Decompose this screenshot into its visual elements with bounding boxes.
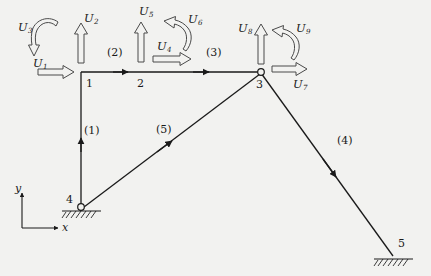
dof-label-u3: U3: [18, 22, 32, 34]
member-label-3: (3): [206, 47, 222, 58]
u2-translation-arrow: [75, 23, 88, 63]
node-5-ground-hatching: [374, 259, 408, 266]
member-4-direction-arrow: [323, 159, 336, 177]
u7-translation-arrow: [272, 63, 307, 76]
u8-translation-arrow: [255, 24, 268, 64]
x-axis-label: x: [62, 222, 68, 233]
dof-label-u9: U9: [296, 23, 310, 35]
member-label-2: (2): [107, 47, 123, 58]
node-3-pin-joint: [258, 69, 265, 76]
frame-diagram-svg: [0, 0, 431, 276]
member-5-direction-arrow: [157, 141, 172, 152]
node-label-3: 3: [256, 79, 263, 90]
joints-and-supports-group: [62, 69, 413, 266]
y-axis-label: y: [15, 183, 21, 194]
node-4-pin-joint: [78, 204, 85, 211]
member-label-5: (5): [156, 124, 172, 135]
dof-label-u6: U6: [188, 14, 202, 26]
u3-rotation-arrow: [29, 19, 59, 56]
node-label-1: 1: [86, 78, 93, 89]
node-4-ground-hatching: [62, 211, 96, 218]
dof-label-u5: U5: [139, 6, 153, 18]
member-label-1: (1): [84, 125, 100, 136]
frame-structure-figure: U3 U1 U2 U5 U6 U4 U8 U9 U7 (2) (3) (1) (…: [0, 0, 431, 276]
members-group: [81, 72, 393, 256]
dof-label-u7: U7: [293, 79, 307, 91]
dof-label-u2: U2: [84, 13, 98, 25]
member-5-line: [84, 74, 260, 207]
node-label-5: 5: [398, 238, 405, 249]
member-label-4: (4): [337, 135, 353, 146]
dof-label-u1: U1: [33, 58, 47, 70]
coordinate-axes-group: [22, 193, 58, 228]
node-label-4: 4: [66, 194, 73, 205]
dof-label-u8: U8: [238, 23, 252, 35]
node-label-2: 2: [137, 78, 144, 89]
dof-label-u4: U4: [157, 41, 171, 53]
u5-translation-arrow: [135, 22, 148, 62]
u4-translation-arrow: [153, 53, 191, 66]
